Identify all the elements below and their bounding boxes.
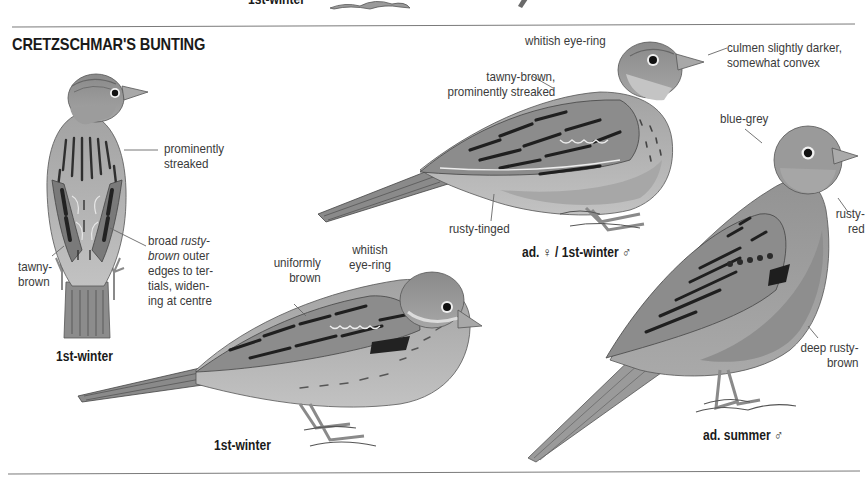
annotation-italic-term: brown [148,248,180,263]
annotation-line: culmen slightly darker, [727,40,842,55]
annotation-line: edges to ter- [148,263,213,278]
annotation-line: deep rusty- [801,340,859,355]
first-winter-side-bird-illustration [78,272,482,446]
back-view-bird-illustration [47,74,158,338]
figure-caption-back-view: 1st-winter [56,348,113,364]
female-symbol-icon: ♀ [543,244,552,260]
caption-age-alt: / 1st-winter [555,244,619,260]
annotation-rusty-tinged: rusty-tinged [449,221,510,236]
previous-bird-feet [330,0,530,9]
figure-caption-first-winter-side: 1st-winter [214,437,271,453]
annotation-line: tials, widen- [148,278,209,293]
male-symbol-icon: ♂ [622,244,631,260]
annotation-whitish-eye-ring-side: whitish eye-ring [349,242,391,272]
annotation-line: tawny-brown, [486,69,555,84]
annotation-line: prominently [164,141,224,156]
annotation-line: red [848,221,865,236]
section-rule-top [12,24,855,27]
annotation-rusty-red: rusty- red [836,206,865,236]
annotation-line: prominently streaked [447,84,555,99]
annotation-line: whitish [352,242,387,257]
annotation-blue-grey: blue-grey [720,111,768,126]
annotation-line: streaked [164,156,209,171]
annotation-line: ing at centre [148,293,212,308]
annotation-rusty-brown-tertials: broad rusty- brown outer edges to ter- t… [148,233,213,308]
figure-caption-adult-summer-male: ad. summer ♂ [703,427,783,443]
annotation-tawny-brown-streaked: tawny-brown, prominently streaked [447,69,555,99]
bird-illustration-plate [0,0,867,480]
caption-age: ad. [522,244,539,260]
annotation-prominently-streaked: prominently streaked [164,141,224,171]
annotation-line: outer [180,248,210,263]
annotation-line: eye-ring [349,257,391,272]
annotation-line: uniformly [274,255,321,270]
species-title: CRETZSCHMAR'S BUNTING [12,35,205,55]
annotation-line: tawny- [18,259,52,274]
caption-age: ad. summer [703,427,771,443]
annotation-line: brown [289,270,321,285]
annotation-culmen: culmen slightly darker, somewhat convex [727,40,842,70]
annotation-deep-rusty-brown: deep rusty- brown [801,340,859,370]
annotation-italic-term: rusty- [181,233,210,248]
annotation-line: rusty- [836,206,865,221]
figure-caption-adult-female: ad. ♀ / 1st-winter ♂ [522,244,631,260]
annotation-line: brown [18,274,50,289]
annotation-line: somewhat convex [727,55,820,70]
section-rule-bottom [8,471,860,474]
annotation-line: brown [827,355,859,370]
male-symbol-icon: ♂ [774,427,783,443]
annotation-tawny-brown-back: tawny- brown [18,259,52,289]
annotation-uniformly-brown: uniformly brown [274,255,321,285]
annotation-whitish-eye-ring: whitish eye-ring [525,33,606,48]
annotation-line: broad [148,233,181,248]
